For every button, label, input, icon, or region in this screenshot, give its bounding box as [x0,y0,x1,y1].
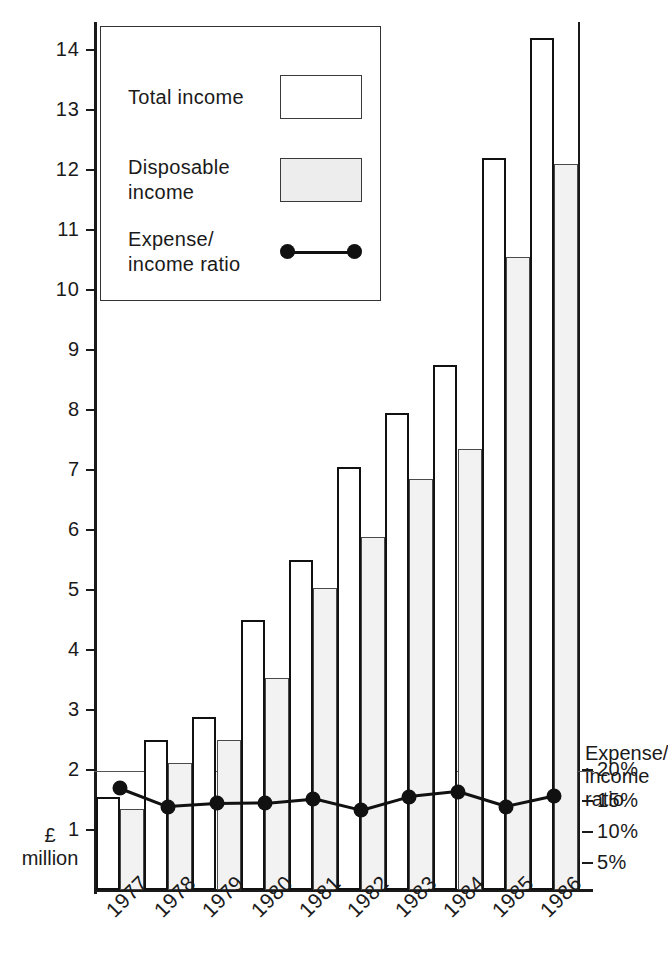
y-tick-11 [86,229,97,231]
bar-disposable-income-1985 [506,257,530,890]
y-tick-label-2: 2 [22,759,80,779]
bar-total-income-1986 [530,38,554,890]
legend-swatch-ratio-line [280,244,362,260]
y-tick-label-6: 6 [22,519,80,539]
y-tick-label-4: 4 [22,639,80,659]
bar-total-income-1984 [433,365,457,890]
legend-dot-left-icon [280,244,295,259]
legend-item-total-income: Total income [128,75,362,119]
legend-item-disposable-income: Disposable income [128,155,362,205]
unit-scale: million [8,847,92,870]
y-tick-label-3: 3 [22,699,80,719]
secondary-tick-10% [582,831,593,833]
y-tick-12 [86,169,97,171]
y-tick-8 [86,409,97,411]
y-tick-label-11: 11 [22,219,80,239]
legend-label-expense-income-ratio: Expense/ income ratio [128,227,241,277]
y-tick-13 [86,109,97,111]
legend-label-ratio-line1: Expense/ [128,228,214,250]
secondary-tick-5% [582,862,593,864]
ratio-data-point-1982 [354,803,369,818]
y-tick-7 [86,469,97,471]
ratio-data-point-1977 [113,780,128,795]
bar-disposable-income-1986 [554,164,578,890]
legend-box: Total income Disposable income Expense/ … [100,26,381,301]
y-tick-label-7: 7 [22,459,80,479]
bar-total-income-1982 [337,467,361,890]
bar-disposable-income-1980 [265,678,289,890]
secondary-caption-line3: ratio [585,788,668,811]
legend-swatch-total-income [280,75,362,119]
y-tick-2 [86,769,97,771]
secondary-caption-line1: Expense/ [585,742,668,765]
y-tick-label-13: 13 [22,99,80,119]
secondary-tick-label-10%: 10% [597,821,639,841]
legend-label-disposable-line1: Disposable [128,156,230,178]
ratio-data-point-1978 [161,799,176,814]
ratio-data-point-1984 [450,784,465,799]
y-tick-3 [86,709,97,711]
ratio-data-point-1985 [498,799,513,814]
y-tick-9 [86,349,97,351]
ratio-data-point-1986 [546,789,561,804]
legend-dot-right-icon [347,244,362,259]
y-tick-10 [86,289,97,291]
y-tick-6 [86,529,97,531]
ratio-data-point-1979 [209,796,224,811]
y-tick-5 [86,589,97,591]
y-tick-label-9: 9 [22,339,80,359]
bar-total-income-1977 [96,797,120,890]
y-tick-label-14: 14 [22,39,80,59]
bar-total-income-1985 [482,158,506,890]
right-axis-line [578,22,580,891]
bar-disposable-income-1982 [361,537,385,890]
legend-swatch-disposable-income [280,158,362,202]
bar-disposable-income-1983 [409,479,433,890]
secondary-axis-caption: Expense/ income ratio [585,742,668,811]
y-tick-label-5: 5 [22,579,80,599]
y-tick-4 [86,649,97,651]
ratio-data-point-1983 [402,789,417,804]
bar-total-income-1980 [241,620,265,890]
legend-item-expense-income-ratio: Expense/ income ratio [128,227,362,277]
bar-total-income-1981 [289,560,313,890]
bar-total-income-1983 [385,413,409,890]
y-axis-unit-label: £ million [8,824,92,870]
bar-total-income-1978 [144,740,168,890]
bar-disposable-income-1979 [217,740,241,890]
y-tick-14 [86,49,97,51]
secondary-tick-label-5%: 5% [597,852,627,872]
unit-currency: £ [8,824,92,847]
bar-disposable-income-1981 [313,588,337,890]
y-tick-label-12: 12 [22,159,80,179]
legend-label-total-income: Total income [128,85,244,110]
bar-disposable-income-1978 [168,763,192,890]
legend-label-ratio-line2: income ratio [128,253,241,275]
ratio-data-point-1981 [305,791,320,806]
secondary-caption-line2: income [585,765,668,788]
y-tick-label-10: 10 [22,279,80,299]
ratio-data-point-1980 [257,795,272,810]
y-tick-label-8: 8 [22,399,80,419]
legend-label-disposable-income: Disposable income [128,155,230,205]
bar-disposable-income-1984 [458,449,482,890]
legend-label-disposable-line2: income [128,181,194,203]
left-axis-line [94,22,97,894]
